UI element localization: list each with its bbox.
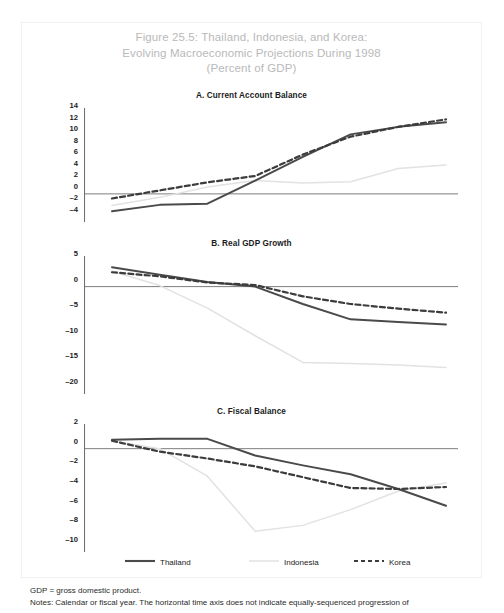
- series-line: [112, 165, 446, 205]
- y-tick-label: 14: [70, 101, 78, 110]
- panel-c-y-axis-labels: 20–2–4–6–8–10: [21, 421, 78, 539]
- plot-svg: [84, 105, 464, 225]
- chart-legend: ThailandIndonesiaKorea: [21, 557, 482, 573]
- series-line: [112, 122, 446, 211]
- y-tick-label: 0: [74, 436, 78, 445]
- y-tick-label: 8: [74, 135, 78, 144]
- panel-a-y-axis-labels: 14121086420–2–4: [21, 105, 78, 209]
- figure-title: Figure 25.5: Thailand, Indonesia, and Ko…: [21, 30, 482, 77]
- series-line: [112, 271, 446, 367]
- y-tick-label: 6: [74, 147, 78, 156]
- panel-a-title: A. Current Account Balance: [21, 91, 482, 100]
- panel-b-plot-area: [84, 253, 464, 397]
- y-tick-label: –10: [65, 325, 78, 334]
- series-line: [112, 441, 446, 531]
- y-tick-label: –6: [70, 495, 78, 504]
- legend-swatch-indonesia: [249, 557, 279, 567]
- panel-b-title: B. Real GDP Growth: [21, 239, 482, 248]
- chart-panel-real-gdp-growth: B. Real GDP Growth 50–5–10–15–20: [21, 236, 482, 391]
- chart-panel-current-account: A. Current Account Balance 14121086420–2…: [21, 88, 482, 218]
- figure-notes: GDP = gross domestic product. Notes: Cal…: [30, 585, 496, 608]
- figure-title-line-3: (Percent of GDP): [21, 61, 482, 77]
- y-tick-label: 0: [74, 274, 78, 283]
- y-tick-label: –5: [70, 300, 78, 309]
- y-tick-label: –2: [70, 193, 78, 202]
- legend-label: Indonesia: [284, 558, 319, 567]
- chart-panel-fiscal-balance: C. Fiscal Balance 20–2–4–6–8–10: [21, 404, 482, 549]
- legend-label: Thailand: [160, 558, 191, 567]
- figure-title-line-2: Evolving Macroeconomic Projections Durin…: [21, 46, 482, 62]
- series-line: [112, 119, 446, 198]
- y-tick-label: –4: [70, 476, 78, 485]
- y-tick-label: –4: [70, 205, 78, 214]
- legend-item-indonesia[interactable]: Indonesia: [249, 557, 319, 567]
- legend-item-thailand[interactable]: Thailand: [125, 557, 191, 567]
- y-tick-label: –20: [65, 377, 78, 386]
- y-tick-label: –2: [70, 456, 78, 465]
- legend-swatch-korea: [354, 557, 384, 567]
- y-tick-label: 12: [70, 112, 78, 121]
- note-calendar-fiscal-year: Notes: Calendar or fiscal year. The hori…: [30, 597, 496, 609]
- y-tick-label: –8: [70, 515, 78, 524]
- series-line: [112, 441, 446, 489]
- panel-c-title: C. Fiscal Balance: [21, 407, 482, 416]
- legend-item-korea[interactable]: Korea: [354, 557, 410, 567]
- y-tick-label: 2: [74, 417, 78, 426]
- plot-svg: [84, 421, 464, 555]
- page-top-artifact: [0, 0, 504, 12]
- panel-a-plot-area: [84, 105, 464, 225]
- note-gdp-definition: GDP = gross domestic product.: [30, 585, 496, 597]
- y-tick-label: –10: [65, 535, 78, 544]
- legend-swatch-thailand: [125, 557, 155, 567]
- y-tick-label: 10: [70, 124, 78, 133]
- figure-title-line-1: Figure 25.5: Thailand, Indonesia, and Ko…: [21, 30, 482, 46]
- y-tick-label: 2: [74, 170, 78, 179]
- y-tick-label: –15: [65, 351, 78, 360]
- panel-b-y-axis-labels: 50–5–10–15–20: [21, 253, 78, 381]
- series-line: [112, 272, 446, 312]
- y-tick-label: 4: [74, 158, 78, 167]
- y-tick-label: 5: [74, 249, 78, 258]
- y-tick-label: 0: [74, 181, 78, 190]
- legend-label: Korea: [389, 558, 410, 567]
- plot-svg: [84, 253, 464, 397]
- panel-c-plot-area: [84, 421, 464, 555]
